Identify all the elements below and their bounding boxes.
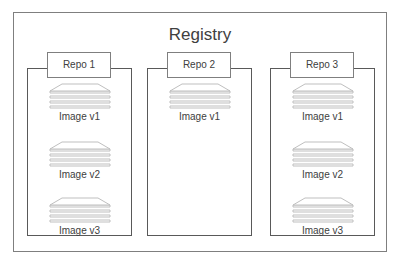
image-label: Image v1: [28, 111, 131, 122]
layered-stack-icon: [168, 83, 232, 109]
repo-3-label: Repo 3: [290, 52, 354, 78]
repo-1-image-v2: Image v2: [28, 141, 131, 187]
registry-title: Registry: [14, 25, 386, 45]
image-label: Image v3: [271, 225, 374, 236]
layered-stack-icon: [291, 141, 355, 167]
repo-2-image-v1: Image v1: [148, 83, 251, 129]
repo-3-image-v1: Image v1: [271, 83, 374, 129]
repo-3-box: Image v1 Image v2 Image v3: [270, 68, 375, 236]
layered-stack-icon: [291, 197, 355, 223]
repo-1-image-v1: Image v1: [28, 83, 131, 129]
image-label: Image v2: [28, 169, 131, 180]
repo-1-box: Image v1 Image v2 Image v3: [27, 68, 132, 236]
repo-3-image-v3: Image v3: [271, 197, 374, 243]
layered-stack-icon: [291, 83, 355, 109]
layered-stack-icon: [48, 197, 112, 223]
layered-stack-icon: [48, 141, 112, 167]
layered-stack-icon: [48, 83, 112, 109]
image-label: Image v3: [28, 225, 131, 236]
repo-2-label: Repo 2: [167, 52, 231, 78]
image-label: Image v2: [271, 169, 374, 180]
image-label: Image v1: [148, 111, 251, 122]
repo-1-image-v3: Image v3: [28, 197, 131, 243]
image-label: Image v1: [271, 111, 374, 122]
repo-3-image-v2: Image v2: [271, 141, 374, 187]
repo-1-label: Repo 1: [47, 52, 111, 78]
repo-2-box: Image v1: [147, 68, 252, 236]
